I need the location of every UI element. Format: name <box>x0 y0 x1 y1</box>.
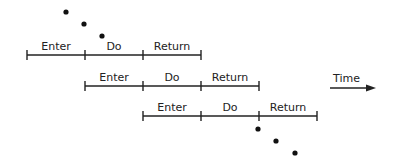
phase-label-do: Do <box>106 40 121 53</box>
time-arrow-head-icon <box>366 85 376 92</box>
timeline-row-1: EnterDoReturn <box>27 40 201 60</box>
timeline-row-2: EnterDoReturn <box>85 71 259 91</box>
ellipsis-dot <box>63 9 68 14</box>
timeline-row-3: EnterDoReturn <box>143 101 317 121</box>
phase-label-return: Return <box>270 101 307 114</box>
continuation-dots-bottom <box>255 126 297 155</box>
pipeline-diagram: EnterDoReturnEnterDoReturnEnterDoReturn … <box>0 0 396 161</box>
phase-label-enter: Enter <box>157 101 187 114</box>
ellipsis-dot <box>81 21 86 26</box>
ellipsis-dot <box>273 138 278 143</box>
phase-label-return: Return <box>212 71 249 84</box>
phase-label-do: Do <box>222 101 237 114</box>
phase-label-return: Return <box>154 40 191 53</box>
ellipsis-dot <box>292 150 297 155</box>
time-axis: Time <box>330 72 376 92</box>
time-label: Time <box>332 72 360 85</box>
ellipsis-dot <box>99 33 104 38</box>
phase-label-enter: Enter <box>41 40 71 53</box>
continuation-dots-top <box>63 9 104 38</box>
phase-label-do: Do <box>164 71 179 84</box>
phase-label-enter: Enter <box>99 71 129 84</box>
ellipsis-dot <box>255 126 260 131</box>
